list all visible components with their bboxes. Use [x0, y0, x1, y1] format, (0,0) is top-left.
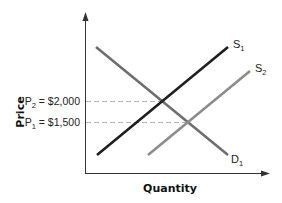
d1-label: D1 — [231, 153, 243, 168]
x-axis — [85, 171, 270, 177]
p1-price-label: P1 = $1,500 — [25, 116, 80, 131]
y-axis-arrow-icon — [83, 12, 89, 21]
supply-curve-s2 — [148, 71, 250, 155]
s1-label: S1 — [233, 38, 245, 53]
y-axis — [83, 12, 89, 174]
x-axis-title: Quantity — [143, 182, 197, 195]
y-axis-title: Price — [14, 96, 27, 127]
supply-demand-chart: S1 S2 D1 P2 = $2,000 P1 = $1,500 Price Q… — [0, 0, 282, 203]
p2-price-label: P2 = $2,000 — [25, 95, 80, 110]
x-axis-arrow-icon — [261, 171, 270, 177]
s2-label: S2 — [255, 62, 267, 77]
